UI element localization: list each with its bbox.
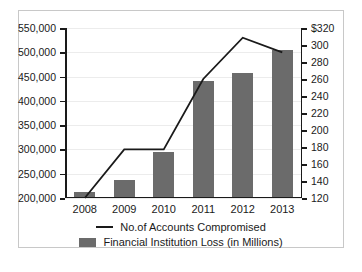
left-tick-label: 300,000 bbox=[18, 143, 56, 155]
x-axis-line bbox=[65, 197, 302, 199]
right-tick-label: 260 bbox=[311, 73, 329, 85]
right-tick-label: 160 bbox=[311, 158, 329, 170]
left-tick-label: 550,000 bbox=[18, 22, 56, 34]
left-tick bbox=[60, 149, 65, 151]
right-tick bbox=[302, 96, 307, 98]
plot-area: 200,000250,000300,000350,000400,000450,0… bbox=[65, 28, 302, 198]
x-tick-label: 2013 bbox=[270, 203, 294, 215]
right-tick bbox=[302, 79, 307, 81]
left-tick bbox=[60, 198, 65, 200]
right-tick bbox=[302, 28, 307, 30]
left-tick bbox=[60, 28, 65, 30]
right-tick bbox=[302, 164, 307, 166]
left-tick bbox=[60, 77, 65, 79]
x-tick-label: 2012 bbox=[231, 203, 255, 215]
right-tick-label: 300 bbox=[311, 39, 329, 51]
right-tick bbox=[302, 181, 307, 183]
left-tick-label: 200,000 bbox=[18, 192, 56, 204]
right-tick bbox=[302, 130, 307, 132]
right-tick bbox=[302, 62, 307, 64]
right-tick-label: 280 bbox=[311, 56, 329, 68]
right-tick-label: 200 bbox=[311, 124, 329, 136]
right-tick bbox=[302, 45, 307, 47]
line-swatch-icon bbox=[96, 226, 113, 228]
x-tick-label: 2008 bbox=[73, 203, 97, 215]
x-tick-label: 2009 bbox=[112, 203, 136, 215]
right-tick bbox=[302, 198, 307, 200]
right-tick-label: 140 bbox=[311, 175, 329, 187]
right-tick-label: 180 bbox=[311, 141, 329, 153]
bar-swatch-icon bbox=[79, 238, 96, 247]
right-tick bbox=[302, 147, 307, 149]
left-tick-label: 400,000 bbox=[18, 95, 56, 107]
x-tick-label: 2010 bbox=[152, 203, 176, 215]
line-series bbox=[65, 28, 302, 198]
right-tick-label: $320 bbox=[311, 22, 334, 34]
left-tick bbox=[60, 174, 65, 176]
left-tick-label: 450,000 bbox=[18, 71, 56, 83]
chart-figure: 200,000250,000300,000350,000400,000450,0… bbox=[18, 10, 344, 248]
chart-legend: No.of Accounts Compromised Financial Ins… bbox=[19, 221, 343, 248]
left-tick bbox=[60, 52, 65, 54]
gridline bbox=[65, 198, 302, 199]
left-tick-label: 250,000 bbox=[18, 168, 56, 180]
left-axis-line bbox=[65, 28, 67, 198]
left-tick bbox=[60, 125, 65, 127]
right-tick-label: 240 bbox=[311, 90, 329, 102]
left-tick bbox=[60, 101, 65, 103]
left-tick-label: 350,000 bbox=[18, 119, 56, 131]
right-tick-label: 220 bbox=[311, 107, 329, 119]
legend-label-accounts: No.of Accounts Compromised bbox=[120, 221, 266, 233]
legend-label-loss: Financial Institution Loss (in Millions) bbox=[103, 236, 282, 248]
left-tick-label: 500,000 bbox=[18, 46, 56, 58]
right-tick-label: 120 bbox=[311, 192, 329, 204]
legend-item-line: No.of Accounts Compromised bbox=[96, 221, 266, 233]
legend-item-bar: Financial Institution Loss (in Millions) bbox=[79, 236, 282, 248]
x-tick-label: 2011 bbox=[191, 203, 215, 215]
right-tick bbox=[302, 113, 307, 115]
